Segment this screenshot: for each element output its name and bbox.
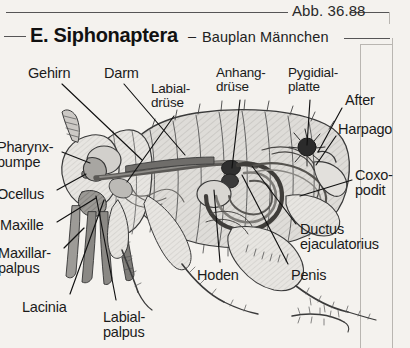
label-gehirn: Gehirn <box>28 66 70 81</box>
label-pharynx-pumpe: Pharynx- pumpe <box>0 140 53 170</box>
label-labial-palpus: Labial- palpus <box>103 310 145 340</box>
label-coxopodit: Coxo- podit <box>355 168 393 198</box>
lacinia-left <box>82 212 96 283</box>
label-pygidial-platte: Pygidial- platte <box>288 66 338 94</box>
label-anhang-druese: Anhang- drüse <box>216 66 266 94</box>
label-maxille: Maxille <box>0 218 44 233</box>
label-maxillar-palpus: Maxillar- palpus <box>0 246 51 276</box>
label-harpago: Harpago <box>338 122 392 137</box>
figure-canvas: Abb. 36.88 E. Siphonaptera – Bauplan Män… <box>0 0 410 348</box>
antenna <box>62 110 79 142</box>
label-penis: Penis <box>291 268 326 283</box>
flea-anatomy-drawing <box>0 0 410 348</box>
label-after: After <box>345 93 375 108</box>
label-hoden: Hoden <box>197 268 239 283</box>
maxillary-palpus <box>66 206 80 278</box>
label-darm: Darm <box>104 66 139 81</box>
label-lacinia: Lacinia <box>22 300 67 315</box>
label-ocellus: Ocellus <box>0 187 44 202</box>
accessory-gland-upper <box>222 161 241 176</box>
label-ductus-ejaculatorius: Ductus ejaculatorius <box>300 222 379 252</box>
label-labial-druese: Labial- drüse <box>151 82 190 110</box>
